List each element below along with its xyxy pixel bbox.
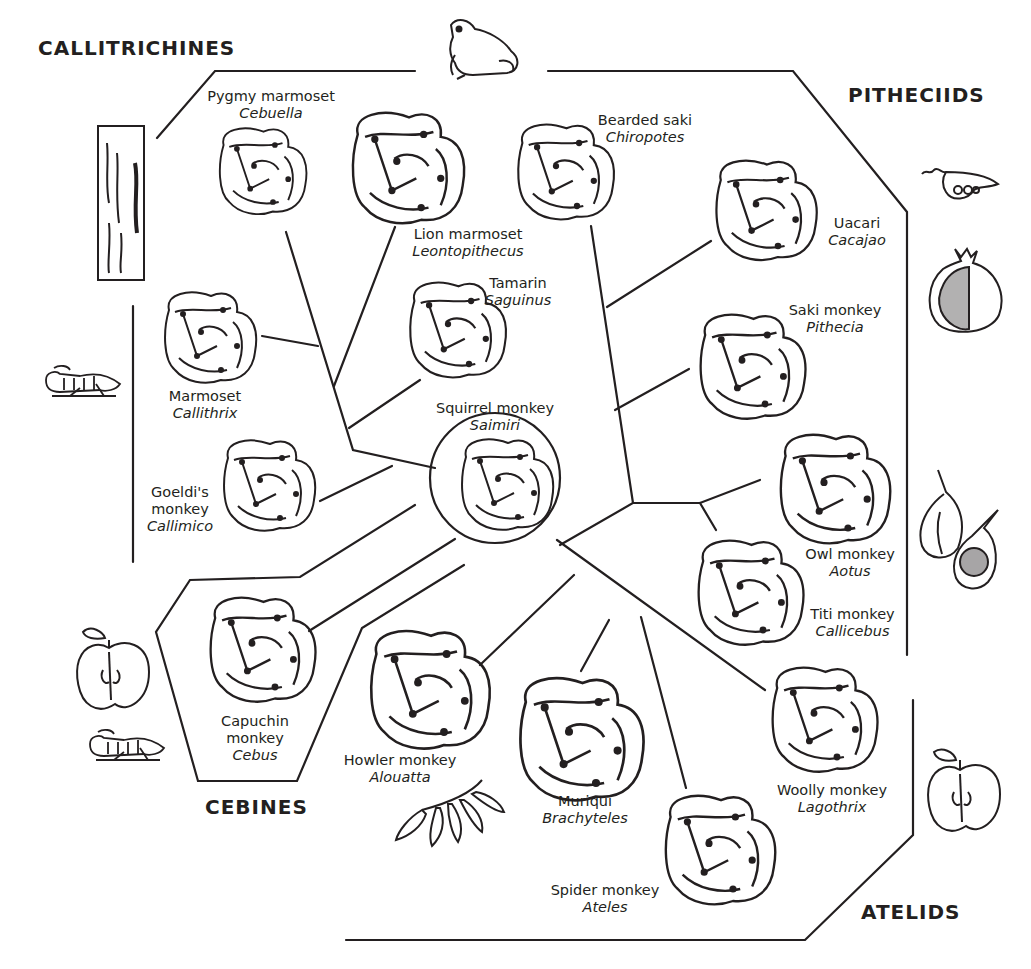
tooth-howler-monkey bbox=[371, 631, 489, 748]
tooth-bearded-saki bbox=[518, 125, 614, 220]
tooth-squirrel-monkey bbox=[462, 439, 553, 529]
tooth-pygmy-marmoset bbox=[220, 128, 307, 214]
tooth-titi-monkey bbox=[699, 541, 804, 645]
tree-bark-gum-icon bbox=[95, 123, 151, 283]
tooth-spider-monkey bbox=[666, 796, 775, 904]
tooth-marmoset bbox=[165, 292, 256, 382]
apple-icon-2 bbox=[924, 746, 1006, 834]
tooth-tamarin bbox=[410, 283, 506, 378]
grasshopper-icon bbox=[40, 362, 126, 400]
tooth-saki-monkey bbox=[701, 315, 806, 419]
grasshopper-icon-2 bbox=[84, 726, 166, 764]
molar-drawings bbox=[0, 0, 1031, 969]
tooth-uacari bbox=[716, 161, 816, 260]
tooth-woolly-monkey bbox=[773, 668, 878, 772]
tooth-muriqui bbox=[520, 678, 643, 800]
leaves-icon bbox=[392, 778, 512, 848]
pomegranate-icon bbox=[925, 245, 1005, 337]
apple-icon bbox=[73, 622, 155, 714]
tooth-lion-marmoset bbox=[353, 113, 464, 223]
figs-icon bbox=[918, 466, 1004, 596]
tooth-goeldis-monkey bbox=[224, 440, 315, 530]
frog-icon bbox=[443, 15, 523, 81]
seed-pod-icon bbox=[918, 162, 1000, 208]
tooth-capuchin-monkey bbox=[211, 598, 316, 702]
tooth-owl-monkey bbox=[781, 435, 890, 543]
